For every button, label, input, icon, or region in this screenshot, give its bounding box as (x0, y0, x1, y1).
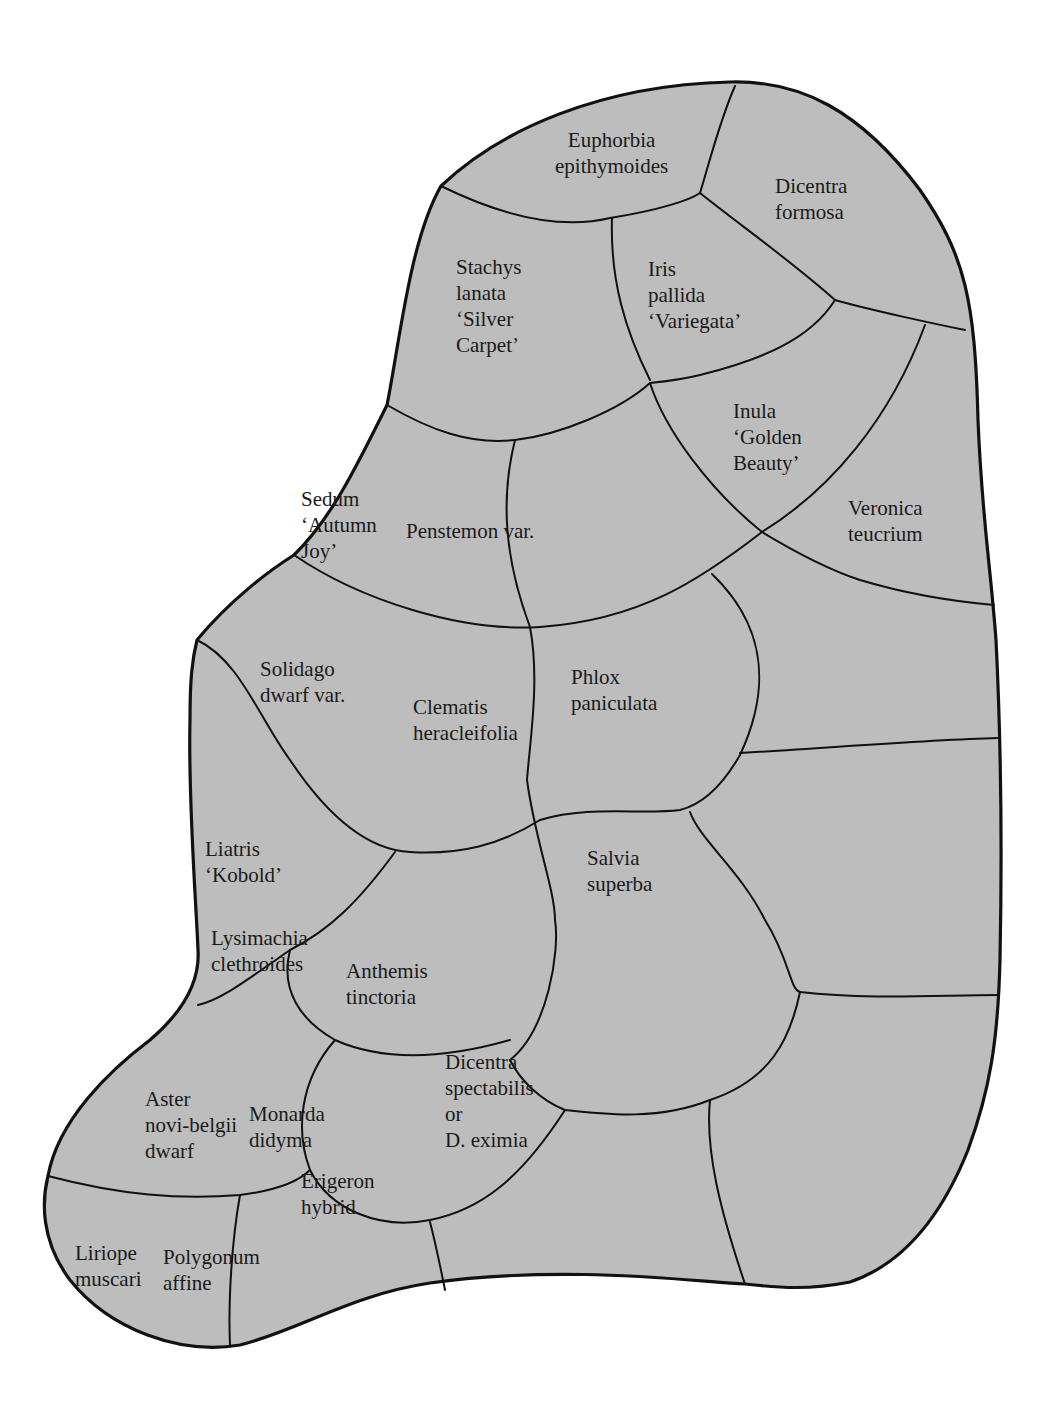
plant-label-aster: Aster novi-belgii dwarf (145, 1086, 237, 1164)
plant-label-lysimachia: Lysimachia clethroides (211, 925, 308, 977)
plant-label-dicentra-spectabilis: Dicentra spectabilis or D. eximia (445, 1049, 534, 1153)
plant-label-solidago: Solidago dwarf var. (260, 656, 345, 708)
plant-label-monarda: Monarda didyma (249, 1101, 325, 1153)
plant-label-stachys: Stachys lanata ‘Silver Carpet’ (456, 254, 521, 358)
plant-label-sedum: Sedum ‘Autumn Joy’ (301, 486, 377, 564)
plant-label-liriope: Liriope muscari (75, 1240, 141, 1292)
plant-label-dicentra-formosa: Dicentra formosa (775, 173, 847, 225)
plant-label-clematis: Clematis heracleifolia (413, 694, 518, 746)
plant-label-penstemon: Penstemon var. (406, 518, 534, 544)
plant-label-erigeron: Erigeron hybrid (301, 1168, 374, 1220)
plant-label-polygonum: Polygonum affine (163, 1244, 260, 1296)
plant-label-salvia: Salvia superba (587, 845, 652, 897)
plant-label-phlox: Phlox paniculata (571, 664, 657, 716)
plant-label-veronica: Veronica teucrium (848, 495, 923, 547)
plant-label-anthemis: Anthemis tinctoria (346, 958, 428, 1010)
plant-label-inula: Inula ‘Golden Beauty’ (733, 398, 802, 476)
planting-plan-diagram (0, 0, 1056, 1415)
plant-label-iris: Iris pallida ‘Variegata’ (648, 256, 741, 334)
plant-label-liatris: Liatris ‘Kobold’ (205, 836, 282, 888)
plant-label-euphorbia: Euphorbia epithymoides (555, 127, 668, 179)
